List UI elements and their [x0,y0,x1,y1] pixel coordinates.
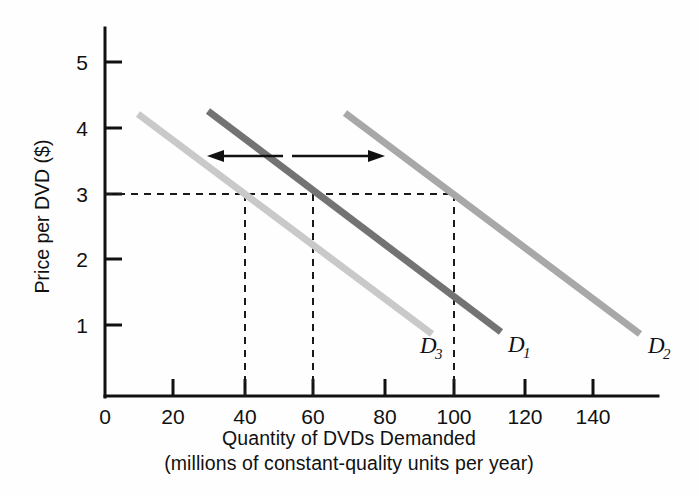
x-axis-label: Quantity of DVDs Demanded [0,427,698,450]
arrow-right-head [368,150,385,162]
y-tick-label: 3 [76,183,88,206]
x-axis-ticks [173,379,593,396]
x-tick-label: 140 [575,405,610,428]
y-axis-label: Price per DVD ($) [31,97,54,337]
arrow-left-head [207,150,224,162]
shift-right-arrow [292,150,385,162]
demand-shift-chart: 5 4 3 2 1 0 20 40 60 80 100 120 140 [0,0,698,497]
y-tick-label: 5 [76,51,88,74]
x-tick-label: 60 [301,405,324,428]
x-tick-label: 20 [161,405,184,428]
chart-canvas: 5 4 3 2 1 0 20 40 60 80 100 120 140 [0,0,698,497]
y-tick-labels: 5 4 3 2 1 [76,51,88,337]
demand-curve-D1 [208,111,501,332]
x-tick-label: 100 [436,405,471,428]
x-tick-label: 0 [99,405,111,428]
curve-label-D2-subscript: 2 [663,346,671,362]
y-tick-label: 4 [76,117,88,140]
curve-label-D2: D 2 [647,333,671,362]
x-axis-sublabel: (millions of constant-quality units per … [0,452,698,475]
x-tick-label: 40 [233,405,256,428]
y-tick-label: 2 [76,248,88,271]
curve-label-D1-subscript: 1 [523,345,531,361]
x-tick-label: 120 [507,405,542,428]
x-tick-label: 80 [373,405,396,428]
y-tick-label: 1 [76,314,88,337]
curve-label-D3: D 3 [419,333,443,362]
curve-label-D1: D 1 [507,332,531,361]
axes [105,28,658,397]
demand-curves [138,111,640,334]
curve-label-D3-subscript: 3 [434,346,443,362]
x-tick-labels: 0 20 40 60 80 100 120 140 [99,405,610,428]
